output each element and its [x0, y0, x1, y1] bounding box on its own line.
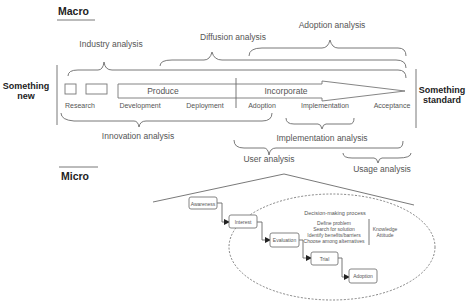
implementation-stage-brace	[286, 118, 354, 129]
stage-research: Research	[65, 102, 95, 109]
diffusion-analysis-brace	[160, 52, 406, 68]
stage-deployment: Deployment	[186, 102, 223, 110]
industry-analysis-brace	[68, 62, 406, 78]
micro-heading: Micro	[61, 170, 89, 182]
industry-analysis-label: Industry analysis	[79, 39, 142, 49]
usage-analysis-label: Usage analysis	[353, 164, 411, 174]
step-interest: Interest	[235, 219, 252, 225]
innovation-analysis-diagram: Macro Something new Something standard I…	[0, 0, 470, 302]
factor-attitude: Attitude	[377, 232, 394, 238]
step-awareness: Awareness	[191, 201, 216, 207]
decision-process-title: Decision-making process	[304, 210, 366, 216]
implementation-analysis-label: Implementation analysis	[276, 133, 367, 143]
stage-implementation: Implementation	[301, 102, 349, 110]
something-standard-line2: standard	[423, 95, 461, 105]
usage-analysis-brace	[343, 153, 411, 163]
decision-item-choose-alternatives: Choose among alternatives	[304, 238, 365, 244]
something-new-line1: Something	[3, 81, 50, 91]
stage-adoption: Adoption	[248, 102, 276, 110]
step-trial: Trial	[320, 256, 330, 262]
macro-heading: Macro	[58, 5, 89, 17]
connector-trial-adoption	[337, 258, 349, 277]
connector-interest-evaluation	[257, 222, 270, 240]
innovation-analysis-label: Innovation analysis	[102, 131, 174, 141]
step-adoption: Adoption	[353, 273, 373, 279]
diffusion-analysis-label: Diffusion analysis	[200, 32, 266, 42]
innovation-analysis-brace	[61, 113, 272, 127]
development-box	[86, 84, 107, 94]
adoption-analysis-label: Adoption analysis	[299, 20, 366, 30]
something-new-line2: new	[17, 91, 36, 101]
research-box	[65, 84, 76, 94]
user-analysis-label: User analysis	[243, 154, 294, 164]
step-evaluation: Evaluation	[273, 237, 297, 243]
incorporate-label: Incorporate	[265, 86, 308, 96]
produce-label: Produce	[147, 86, 179, 96]
stage-development: Development	[119, 102, 160, 110]
adoption-analysis-brace	[249, 40, 406, 56]
connector-awareness-interest	[217, 203, 229, 222]
stage-acceptance: Acceptance	[374, 102, 411, 110]
something-standard-line1: Something	[419, 85, 466, 95]
